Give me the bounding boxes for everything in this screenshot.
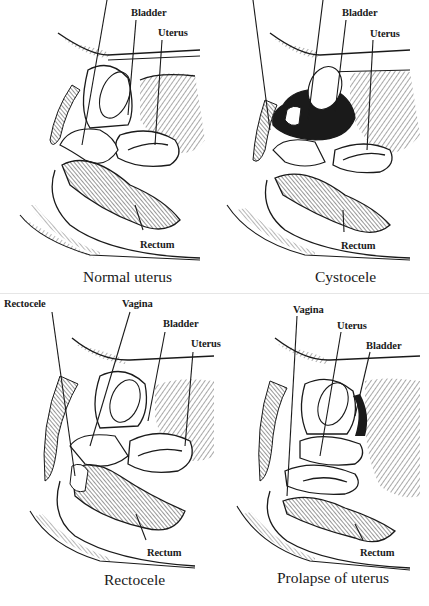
label-rectum: Rectum [360, 547, 394, 558]
rectocele-illustration [0, 296, 214, 606]
label-bladder: Bladder [342, 7, 377, 18]
panel-normal-uterus: Bladder Uterus Rectum Normal uterus [0, 0, 214, 290]
label-rectum: Rectum [140, 239, 174, 250]
panel-cystocele: Bladder Uterus Rectum Cystocele [215, 0, 429, 290]
label-bladder: Bladder [131, 7, 166, 18]
normal-uterus-illustration [0, 0, 214, 290]
label-uterus: Uterus [370, 28, 400, 39]
label-rectum: Rectum [341, 240, 375, 251]
caption-prolapse-of-uterus: Prolapse of uterus [277, 569, 389, 587]
panel-prolapse-of-uterus: Vagina Uterus Bladder Rectum Prolapse of… [215, 296, 429, 606]
label-rectocele: Rectocele [4, 298, 46, 309]
label-bladder: Bladder [163, 318, 198, 329]
caption-cystocele: Cystocele [315, 268, 376, 286]
caption-rectocele: Rectocele [104, 571, 165, 589]
label-uterus: Uterus [337, 320, 367, 331]
caption-normal-uterus: Normal uterus [83, 268, 172, 286]
panel-rectocele: Rectocele Vagina Bladder Uterus Rectum R… [0, 296, 214, 606]
label-vagina: Vagina [293, 304, 324, 315]
label-rectum: Rectum [147, 547, 181, 558]
panel-divider [0, 293, 429, 294]
label-vagina: Vagina [122, 298, 153, 309]
label-uterus: Uterus [158, 27, 188, 38]
label-bladder: Bladder [366, 340, 401, 351]
cystocele-illustration [215, 0, 429, 290]
